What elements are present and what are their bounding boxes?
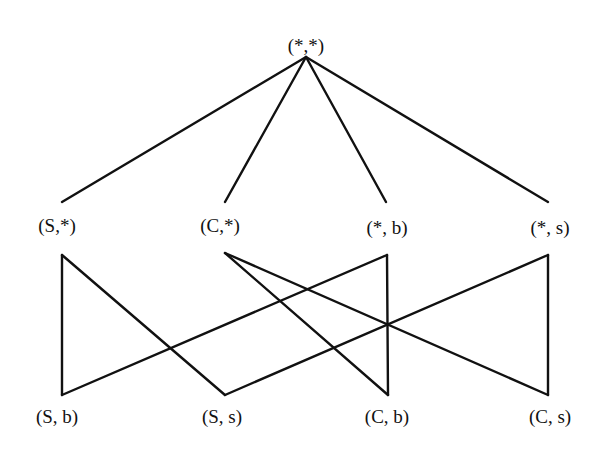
node-any-b: (*, b) bbox=[366, 217, 407, 239]
diagram-background bbox=[0, 0, 604, 464]
node-S-s: (S, s) bbox=[202, 406, 242, 428]
node-S-b: (S, b) bbox=[36, 406, 78, 428]
node-C-b: (C, b) bbox=[365, 406, 409, 428]
node-S-any: (S,*) bbox=[38, 215, 75, 237]
node-any-s: (*, s) bbox=[530, 217, 569, 239]
node-C-s: (C, s) bbox=[529, 406, 571, 428]
lattice-diagram: (*,*) (S,*) (C,*) (*, b) (*, s) (S, b) (… bbox=[0, 0, 604, 464]
node-top: (*,*) bbox=[288, 35, 324, 57]
node-C-any: (C,*) bbox=[200, 215, 240, 237]
